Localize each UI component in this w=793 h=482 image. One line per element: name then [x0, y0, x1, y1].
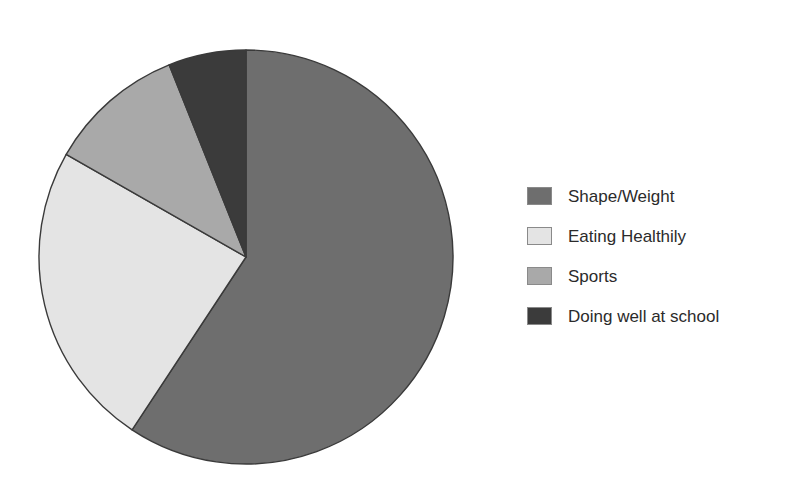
legend-item-eating-healthily[interactable]: Eating Healthily: [527, 216, 777, 256]
legend-swatch-icon-sports: [527, 267, 552, 285]
chart-legend: Shape/Weight Eating Healthily Sports Doi…: [527, 176, 777, 336]
legend-item-shape-weight[interactable]: Shape/Weight: [527, 176, 777, 216]
pie-chart-area: [0, 0, 500, 482]
pie-chart-svg: [0, 0, 500, 482]
legend-swatch-icon-doing-well-at-school: [527, 307, 552, 325]
chart-page: Shape/Weight Eating Healthily Sports Doi…: [0, 0, 793, 482]
legend-label-sports: Sports: [568, 268, 617, 285]
legend-label-eating-healthily: Eating Healthily: [568, 228, 686, 245]
legend-swatch-icon-eating-healthily: [527, 227, 552, 245]
legend-item-sports[interactable]: Sports: [527, 256, 777, 296]
legend-label-doing-well-at-school: Doing well at school: [568, 308, 719, 325]
pie-slice-group: [39, 50, 453, 464]
legend-label-shape-weight: Shape/Weight: [568, 188, 674, 205]
legend-swatch-icon-shape-weight: [527, 187, 552, 205]
legend-item-doing-well-at-school[interactable]: Doing well at school: [527, 296, 777, 336]
